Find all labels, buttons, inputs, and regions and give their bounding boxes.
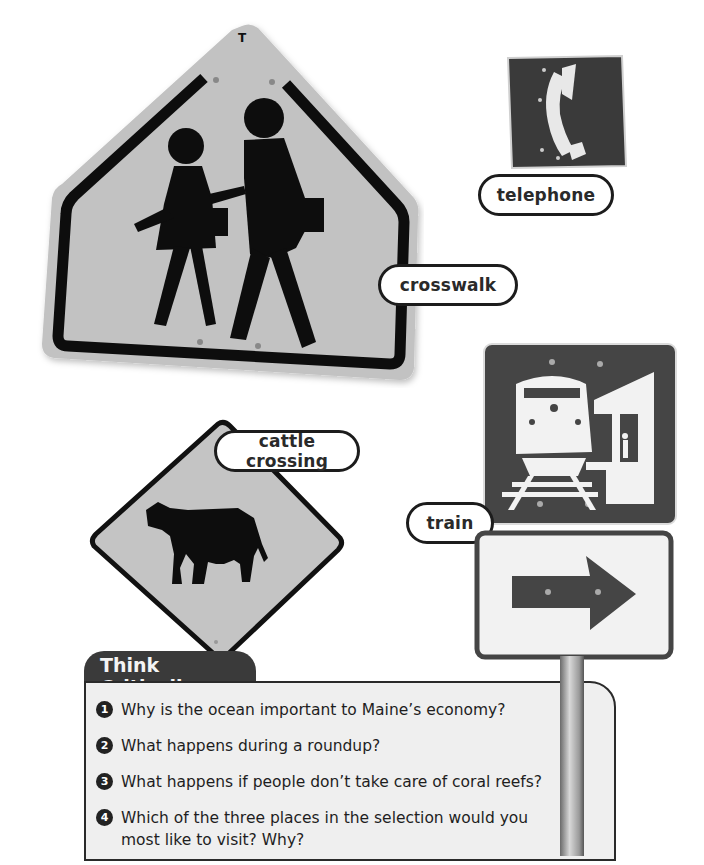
question-item: 4 Which of the three places in the selec… xyxy=(96,807,566,851)
question-text: Why is the ocean important to Maine’s ec… xyxy=(121,699,506,721)
telephone-label: telephone xyxy=(478,174,614,216)
crosswalk-label: crosswalk xyxy=(378,264,518,306)
question-item: 3 What happens if people don’t take care… xyxy=(96,771,566,793)
question-text: What happens if people don’t take care o… xyxy=(121,771,542,793)
cattle-crossing-label: cattle crossing xyxy=(214,430,360,472)
question-item: 2 What happens during a roundup? xyxy=(96,735,566,757)
train-sign-image xyxy=(482,342,678,526)
number-badge-icon: 1 xyxy=(96,701,113,718)
arrow-sign-image xyxy=(474,530,674,660)
svg-text:T: T xyxy=(238,31,247,45)
number-badge-icon: 2 xyxy=(96,737,113,754)
number-badge-icon: 4 xyxy=(96,809,113,826)
question-text: What happens during a roundup? xyxy=(121,735,380,757)
question-list: 1 Why is the ocean important to Maine’s … xyxy=(96,699,566,865)
telephone-sign-image xyxy=(504,54,628,170)
number-badge-icon: 3 xyxy=(96,773,113,790)
question-item: 1 Why is the ocean important to Maine’s … xyxy=(96,699,566,721)
question-text: Which of the three places in the selecti… xyxy=(121,807,566,851)
crosswalk-sign-image: T xyxy=(34,18,424,388)
